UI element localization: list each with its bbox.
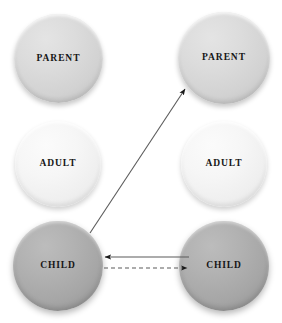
- ego-state-adult-right[interactable]: ADULT: [181, 121, 267, 207]
- ego-state-label: PARENT: [37, 54, 81, 64]
- ego-state-parent-right[interactable]: PARENT: [178, 12, 270, 104]
- ego-state-child-right[interactable]: CHILD: [179, 221, 269, 311]
- ego-state-adult-left[interactable]: ADULT: [15, 121, 101, 207]
- transactional-analysis-diagram: PARENT PARENT ADULT ADULT CHILD CHILD: [0, 0, 282, 323]
- ego-state-parent-left[interactable]: PARENT: [14, 14, 103, 103]
- ego-state-label: ADULT: [206, 159, 243, 169]
- transaction-arrow-child-left-to-parent-right: [90, 89, 185, 233]
- ego-state-label: CHILD: [40, 261, 76, 271]
- ego-state-label: CHILD: [206, 261, 242, 271]
- ego-state-label: PARENT: [202, 53, 246, 63]
- ego-state-label: ADULT: [40, 159, 77, 169]
- ego-state-child-left[interactable]: CHILD: [13, 221, 103, 311]
